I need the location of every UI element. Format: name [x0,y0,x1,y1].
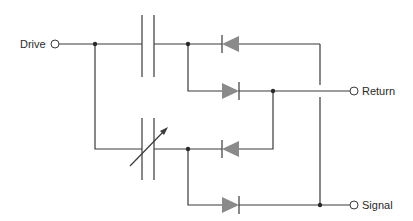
wire-d3-return [239,91,273,149]
circuit-diagram: Drive Return Signal [0,0,413,221]
junction-dot [93,42,97,46]
label-return: Return [362,85,395,97]
diode-d3 [222,140,239,158]
junction-dot [186,42,190,46]
wire-drive-c2 [95,44,142,149]
junction-dot [271,89,275,93]
junction-dot [318,203,322,207]
wire-c1-d2 [188,44,222,91]
diode-d1 [222,35,239,53]
terminal-return [350,87,358,95]
terminal-signal [350,201,358,209]
label-signal: Signal [362,199,393,211]
terminal-drive [51,40,59,48]
variable-arrow-icon [130,130,165,166]
diode-d4 [222,196,239,214]
junction-dot [186,147,190,151]
label-drive: Drive [20,38,46,50]
wire-c2-d4 [188,149,222,205]
diode-d2 [222,82,239,100]
